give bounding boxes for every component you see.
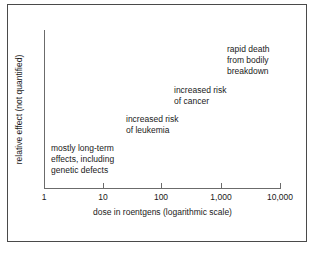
annotation-rapid-death: rapid death from bodily breakdown [227,44,270,78]
x-axis-tick-1 [44,183,45,188]
x-axis-ticklabel-1000: 1,000 [210,192,231,202]
annotation-long-term-effects: mostly long-term effects, including gene… [51,143,114,177]
x-axis-line [44,188,281,189]
x-axis-tick-1000 [221,183,222,188]
y-axis-title-text: relative effect (not quantified) [15,54,26,163]
y-axis-line [44,30,45,188]
x-axis-tick-10 [103,183,104,188]
radiation-dose-effect-figure: 1 10 100 1,000 10,000 dose in roentgens … [0,0,314,253]
x-axis-tick-10000 [280,183,281,188]
x-axis-ticklabel-10000: 10,000 [267,192,293,202]
x-axis-ticklabel-1: 1 [42,192,47,202]
y-axis-title: relative effect (not quantified) [14,30,26,188]
x-axis-ticklabel-100: 100 [154,192,168,202]
x-axis-tick-100 [161,183,162,188]
annotation-increased-risk-of-cancer: increased risk of cancer [174,85,226,107]
caption-fragment [7,249,307,253]
x-axis-title: dose in roentgens (logarithmic scale) [44,207,281,218]
annotation-increased-risk-of-leukemia: increased risk of leukemia [126,114,178,136]
x-axis-ticklabel-10: 10 [98,192,107,202]
plot-area: 1 10 100 1,000 10,000 dose in roentgens … [0,0,314,253]
